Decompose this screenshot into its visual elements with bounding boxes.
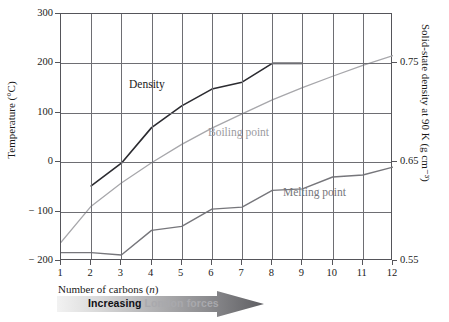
x-axis-tick-label: 2 — [80, 268, 100, 279]
gridline-horizontal — [61, 63, 391, 64]
gridline-vertical — [333, 14, 334, 259]
y-axis-title-text: Temperature (°C) — [5, 50, 17, 190]
x-axis-tick — [181, 260, 182, 265]
y2-axis-tick-label: 0.75 — [400, 57, 418, 68]
y-axis-tick — [55, 112, 60, 113]
y-axis-tick — [55, 13, 60, 14]
series-label-boiling-point: Boiling point — [208, 126, 269, 138]
x-axis-tick — [211, 260, 212, 265]
y-axis-tick — [55, 211, 60, 212]
y2-axis-tick — [392, 161, 397, 162]
gridline-vertical — [121, 14, 122, 259]
gridline-vertical — [152, 14, 153, 259]
x-axis-tick-label: 3 — [110, 268, 130, 279]
gridline-vertical — [272, 14, 273, 259]
y-axis-tick-label: 300 — [3, 8, 53, 19]
y-axis-tick-label: − 100 — [3, 206, 53, 217]
boiling-point-curve — [61, 56, 393, 243]
x-axis-tick-label: 1 — [50, 268, 70, 279]
y2-axis-title: Solid-state density at 90 K (g cm⁻³) — [419, 24, 432, 182]
x-axis-tick — [332, 260, 333, 265]
x-axis-tick-label: 11 — [352, 268, 372, 279]
x-axis-tick — [120, 260, 121, 265]
y-axis-tick-label: 200 — [3, 57, 53, 68]
chart-figure: Temperature (°C) Solid-state density at … — [0, 0, 449, 322]
x-axis-tick-label: 4 — [141, 268, 161, 279]
gridline-vertical — [302, 14, 303, 259]
x-axis-tick — [60, 260, 61, 265]
x-axis-tick-label: 7 — [231, 268, 251, 279]
y-axis-tick-label: 100 — [3, 107, 53, 118]
gridline-vertical — [363, 14, 364, 259]
x-axis-tick — [301, 260, 302, 265]
y2-axis-tick-label: 0.65 — [400, 156, 418, 167]
gridline-horizontal — [61, 212, 391, 213]
x-axis-tick-label: 12 — [382, 268, 402, 279]
series-label-melting-point: Melting point — [283, 186, 346, 198]
y-axis-tick — [55, 161, 60, 162]
density-curve — [91, 63, 302, 186]
x-axis-tick-label: 10 — [322, 268, 342, 279]
y2-axis-tick-label: 0.55 — [400, 255, 418, 266]
x-axis-tick — [241, 260, 242, 265]
x-axis-tick-label: 9 — [291, 268, 311, 279]
gridline-horizontal — [61, 162, 391, 163]
x-axis-tick — [151, 260, 152, 265]
x-axis-tick-label: 5 — [171, 268, 191, 279]
y-axis-tick-label: − 200 — [3, 255, 53, 266]
gridline-vertical — [182, 14, 183, 259]
x-axis-tick — [271, 260, 272, 265]
gridline-vertical — [91, 14, 92, 259]
y-axis-tick-label: 0 — [3, 156, 53, 167]
arrow-label-strong: Increasing — [88, 297, 145, 309]
arrow-label-faded: London forces — [145, 297, 219, 309]
increasing-london-forces-arrow: Increasing London forces — [57, 291, 264, 317]
x-axis-tick — [362, 260, 363, 265]
arrow-label: Increasing London forces — [88, 297, 219, 309]
x-axis-tick — [90, 260, 91, 265]
y-axis-tick — [55, 62, 60, 63]
y2-axis-tick — [392, 62, 397, 63]
x-axis-tick — [392, 260, 393, 265]
gridline-horizontal — [61, 113, 391, 114]
series-label-density: Density — [129, 78, 165, 90]
x-axis-tick-label: 8 — [261, 268, 281, 279]
x-axis-tick-label: 6 — [201, 268, 221, 279]
